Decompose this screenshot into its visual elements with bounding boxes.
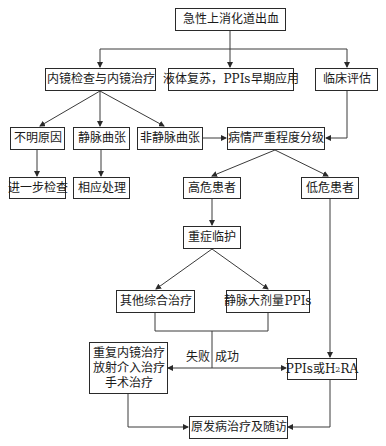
ppi-h2ra-prefix: PPIs或H xyxy=(286,362,336,377)
ppi-h2ra-suffix: RA xyxy=(340,362,358,377)
repeat-line-2: 放射介入治疗 xyxy=(93,361,165,376)
node-endoscopy: 内镜检查与内镜治疗 xyxy=(45,68,156,91)
node-other-treatment: 其他综合治疗 xyxy=(116,290,195,313)
node-acute-ugib: 急性上消化道出血 xyxy=(175,8,286,31)
node-severity-grading: 病情严重程度分级 xyxy=(227,127,325,150)
node-nonvarices: 非静脉曲张 xyxy=(137,127,203,150)
node-fluid-resuscitation: 液体复苏，PPIs早期应用 xyxy=(168,68,294,91)
node-clinical-assessment: 临床评估 xyxy=(315,68,378,91)
repeat-line-3: 手术治疗 xyxy=(105,376,153,391)
node-iv-high-dose-ppi: 静脉大剂量PPIs xyxy=(226,290,310,313)
node-high-risk: 高危患者 xyxy=(183,177,241,199)
node-varices: 静脉曲张 xyxy=(73,127,130,150)
node-corresponding-treatment: 相应处理 xyxy=(73,177,130,199)
node-primary-disease-followup: 原发病治疗及随访 xyxy=(189,416,288,439)
node-icu-care: 重症临护 xyxy=(183,226,241,249)
node-low-risk: 低危患者 xyxy=(301,177,359,199)
node-ppi-or-h2ra: PPIs或H2RA xyxy=(287,358,357,380)
node-unknown-cause: 不明原因 xyxy=(10,127,65,150)
label-success: 成功 xyxy=(215,350,239,364)
node-further-exam: 进一步检查 xyxy=(9,177,66,199)
repeat-line-1: 重复内镜治疗 xyxy=(93,346,165,361)
label-failure: 失败 xyxy=(186,350,210,364)
node-repeat-endoscopy: 重复内镜治疗 放射介入治疗 手术治疗 xyxy=(89,342,168,394)
